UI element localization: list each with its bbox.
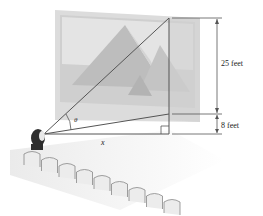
screen-side [169,18,200,122]
viewer-shoulders [31,144,43,150]
label-theta: θ [74,116,78,124]
viewer-face [39,131,45,141]
seat [24,152,40,168]
arrow-down-icon [215,108,219,113]
label-25-feet: 25 feet [221,59,244,68]
label-8-feet: 8 feet [221,121,240,130]
seat [59,164,75,180]
seat [94,176,110,192]
seat [42,158,58,174]
arrow-up-icon [215,19,219,24]
seat [112,182,128,198]
seat [147,194,163,210]
seat [164,200,180,216]
theater-diagram: 25 feet 8 feet x θ [0,0,263,215]
label-x: x [100,138,105,147]
seat [129,188,145,204]
seat [77,170,93,186]
viewer [31,129,45,150]
arrow-down-icon [215,129,219,133]
arrow-up-icon [215,115,219,119]
